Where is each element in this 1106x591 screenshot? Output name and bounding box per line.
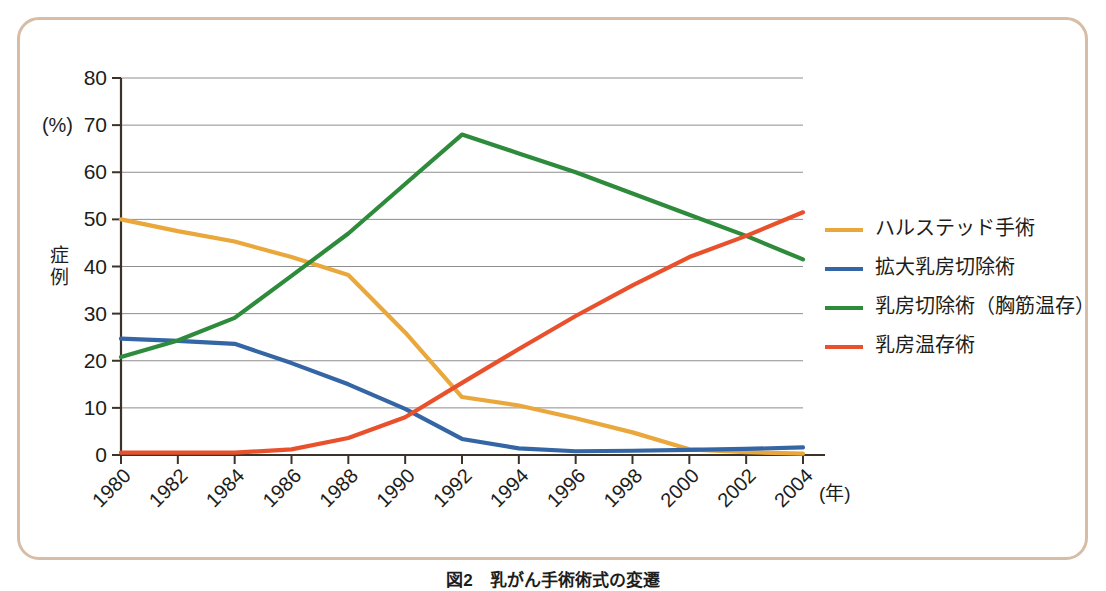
- y-tick-marks: [112, 78, 121, 455]
- x-tick-label: 1980: [88, 464, 135, 511]
- gridlines: [121, 78, 803, 408]
- y-tick-label: 30: [84, 302, 107, 325]
- y-tick-label: 0: [95, 443, 107, 466]
- legend-label-0: ハルステッド手術: [875, 217, 1035, 239]
- x-tick-label: 1998: [599, 464, 646, 511]
- legend-label-1: 拡大乳房切除術: [875, 256, 1015, 278]
- x-tick-label: 1994: [486, 464, 533, 511]
- y-tick-label: 50: [84, 207, 107, 230]
- y-tick-label: 10: [84, 396, 107, 419]
- x-tick-label: 1982: [145, 464, 192, 511]
- x-tick-label: 2002: [713, 464, 760, 511]
- series-lines: [121, 135, 803, 454]
- y-tick-label: 70: [84, 113, 107, 136]
- figure-frame: 01020304050607080 1980198219841986198819…: [17, 17, 1088, 560]
- x-tick-label: 2004: [770, 464, 817, 511]
- x-tick-label: 1992: [429, 464, 476, 511]
- x-tick-label: 1996: [542, 464, 589, 511]
- y-tick-label: 20: [84, 349, 107, 372]
- legend-label-2: 乳房切除術（胸筋温存）: [875, 295, 1091, 317]
- x-tick-label: 1984: [201, 464, 248, 511]
- x-tick-label: 1990: [372, 464, 419, 511]
- series-line-2: [121, 135, 803, 357]
- y-axis-title-char: 症: [50, 245, 69, 266]
- y-unit-label: (%): [42, 114, 73, 136]
- legend-label-3: 乳房温存術: [875, 334, 975, 356]
- chart-legend: ハルステッド手術拡大乳房切除術乳房切除術（胸筋温存）乳房温存術: [825, 217, 1091, 356]
- y-tick-labels: 01020304050607080: [84, 66, 107, 466]
- x-tick-labels: 1980198219841986198819901992199419961998…: [88, 464, 817, 511]
- x-tick-marks: [121, 455, 803, 464]
- line-chart: 01020304050607080 1980198219841986198819…: [20, 20, 1091, 563]
- y-axis-title-char: 例: [50, 267, 69, 288]
- y-tick-label: 80: [84, 66, 107, 89]
- x-tick-label: 1986: [258, 464, 305, 511]
- x-tick-label: 2000: [656, 464, 703, 511]
- x-tick-label: 1988: [315, 464, 362, 511]
- y-tick-label: 40: [84, 255, 107, 278]
- figure-caption: 図2 乳がん手術術式の変遷: [0, 566, 1106, 591]
- y-tick-label: 60: [84, 160, 107, 183]
- y-axis-title: 症例: [50, 245, 69, 288]
- x-unit-label: (年): [819, 483, 851, 504]
- series-line-3: [121, 212, 803, 452]
